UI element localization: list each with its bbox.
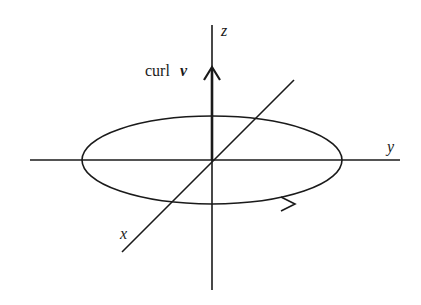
curl-label: curl v <box>145 62 188 79</box>
z-axis-label: z <box>220 22 228 39</box>
curl-vector-symbol: v <box>180 62 188 79</box>
curl-word: curl <box>145 62 170 79</box>
y-axis-label: y <box>385 138 395 156</box>
curl-diagram: z curl v y x <box>0 0 421 305</box>
circulation-arrow-icon <box>281 197 295 211</box>
x-axis <box>122 80 294 252</box>
x-axis-label: x <box>119 225 127 242</box>
